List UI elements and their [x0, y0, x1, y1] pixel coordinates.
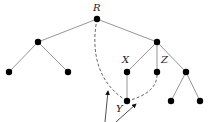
tree-diagram: [0, 0, 213, 122]
tree-nodes: [6, 16, 203, 104]
tree-edges: [9, 19, 200, 101]
label-y: Y: [116, 104, 123, 114]
label-r: R: [93, 3, 101, 13]
label-z: Z: [161, 55, 168, 65]
label-x: X: [122, 55, 129, 65]
